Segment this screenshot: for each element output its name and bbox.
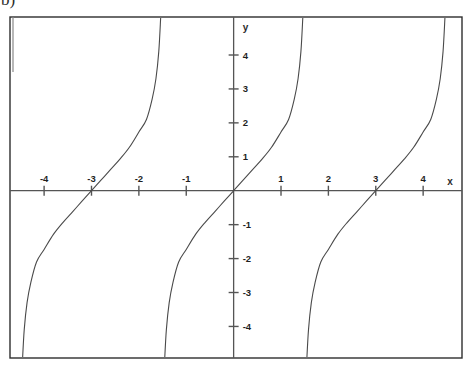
y-tick-label: -4: [243, 321, 252, 332]
x-tick-label: -4: [40, 173, 49, 184]
plot-canvas: -4-3-2-112344321-1-2-3-4 xy: [0, 0, 471, 369]
y-tick-label: 1: [243, 151, 249, 162]
x-tick-label: 4: [421, 173, 427, 184]
y-tick-label: -3: [243, 287, 251, 298]
graph-figure: b) -4-3-2-112344321-1-2-3-4 xy: [0, 0, 471, 369]
y-axis-name: y: [243, 22, 249, 33]
x-tick-label: -1: [182, 173, 191, 184]
x-tick-label: -2: [135, 173, 143, 184]
figure-corner-label: b): [1, 0, 15, 8]
y-tick-label: 2: [243, 117, 248, 128]
y-tick-label: 3: [243, 83, 248, 94]
x-tick-label: -3: [87, 173, 95, 184]
y-tick-label: -2: [243, 253, 251, 264]
x-tick-label: 3: [373, 173, 378, 184]
x-tick-label: 2: [326, 173, 331, 184]
x-axis-name: x: [447, 176, 453, 187]
y-tick-label: 4: [243, 50, 249, 61]
y-tick-label: -1: [243, 219, 252, 230]
x-tick-label: 1: [278, 173, 284, 184]
